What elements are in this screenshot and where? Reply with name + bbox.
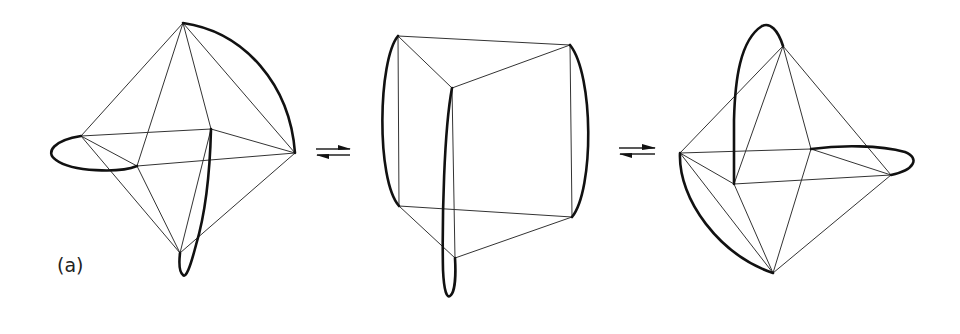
- right-octahedron-right-loop: [811, 146, 913, 175]
- left-octahedron-edges: [81, 23, 295, 253]
- panel-label: (a): [57, 254, 83, 276]
- left-octahedron-bottom-loop: [179, 129, 211, 276]
- left-octahedron-left-loop: [51, 136, 137, 170]
- equilibrium-arrow-1: [316, 145, 351, 159]
- equilibrium-arrow-2: [619, 144, 656, 158]
- left-octahedron: [51, 23, 295, 276]
- right-octahedron-top-loop: [734, 25, 783, 184]
- right-octahedron: [680, 25, 914, 273]
- prism-right-arc: [570, 45, 588, 217]
- center-trigonal-prism: [382, 36, 588, 296]
- prism-left-arc: [382, 36, 399, 206]
- diagram-canvas: [0, 0, 960, 334]
- right-octahedron-edges: [680, 46, 891, 273]
- prism-edges: [398, 36, 572, 258]
